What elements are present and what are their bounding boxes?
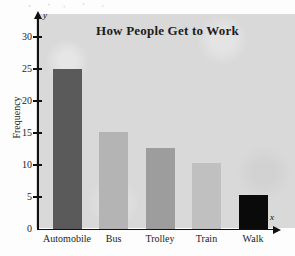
bar-walk (239, 195, 268, 229)
bar-chart-figure: How People Get to Work y x Frequency 051… (0, 0, 295, 256)
bar-series (0, 0, 295, 229)
bar-automobile (53, 69, 82, 229)
category-label-walk: Walk (213, 233, 293, 244)
bar-trolley (146, 148, 175, 229)
bar-train (192, 163, 221, 229)
bar-bus (99, 132, 128, 229)
